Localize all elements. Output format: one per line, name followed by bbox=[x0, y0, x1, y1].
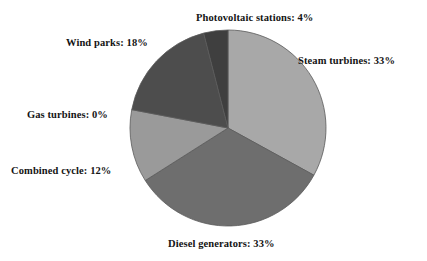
slice-label-diesel-generators: Diesel generators: 33% bbox=[168, 237, 275, 250]
pie-slice-group bbox=[130, 30, 326, 226]
pie-chart: Photovoltaic stations: 4% Steam turbines… bbox=[0, 0, 427, 261]
pie-chart-svg bbox=[0, 0, 427, 261]
slice-label-gas-turbines: Gas turbines: 0% bbox=[27, 108, 108, 121]
slice-label-wind-parks: Wind parks: 18% bbox=[66, 36, 148, 49]
slice-label-photovoltaic-stations: Photovoltaic stations: 4% bbox=[196, 11, 313, 24]
slice-label-combined-cycle: Combined cycle: 12% bbox=[11, 164, 111, 177]
slice-label-steam-turbines: Steam turbines: 33% bbox=[298, 54, 395, 67]
